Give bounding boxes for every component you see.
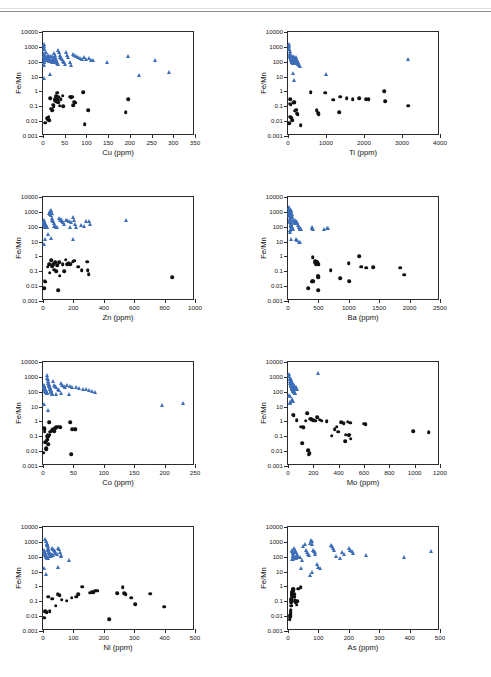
y-axis-tick	[39, 32, 43, 33]
x-axis-tick-label: 400	[404, 635, 414, 641]
y-axis-tick	[39, 572, 43, 573]
data-point	[326, 226, 330, 230]
data-point	[42, 402, 46, 406]
data-point	[133, 602, 137, 606]
y-axis-tick-label: 0.1	[29, 433, 38, 439]
x-axis-tick-label: 300	[129, 635, 139, 641]
x-axis-tick-label: 100	[81, 140, 91, 146]
data-point	[291, 71, 295, 75]
y-axis-tick	[284, 286, 288, 287]
panel-as: 0.0010.010.11101001000100000100200300400…	[245, 513, 491, 677]
data-point	[93, 390, 97, 394]
y-axis-tick	[284, 32, 288, 33]
x-axis-tick	[43, 134, 44, 138]
x-axis-tick	[379, 299, 380, 303]
data-point	[85, 260, 89, 264]
data-point	[310, 570, 314, 574]
data-point	[47, 442, 51, 446]
x-axis-tick-label: 400	[159, 635, 169, 641]
plot-area: 0.0010.010.11101001000100000100020003000…	[287, 31, 439, 135]
plot-area: 0.0010.010.11101001000100000100200300400…	[42, 526, 194, 630]
y-axis-tick-label: 1	[280, 583, 283, 589]
x-axis-tick-label: 1200	[433, 470, 447, 476]
x-axis-tick	[326, 134, 327, 138]
x-axis-tick	[349, 629, 350, 633]
y-axis-tick	[284, 271, 288, 272]
data-point	[121, 585, 125, 589]
data-point	[42, 287, 46, 291]
data-point	[181, 401, 185, 405]
data-point	[42, 616, 46, 620]
x-axis-tick	[288, 629, 289, 633]
y-axis-tick-label: 10000	[266, 524, 283, 530]
data-point	[403, 273, 407, 277]
data-point	[311, 227, 315, 231]
y-axis-tick	[284, 436, 288, 437]
y-axis-tick-label: 0.1	[29, 598, 38, 604]
data-point	[347, 261, 351, 265]
data-point	[124, 110, 128, 114]
y-axis-tick-label: 10000	[21, 194, 38, 200]
x-axis-tick-label: 200	[99, 635, 109, 641]
y-axis-tick-label: 0.1	[29, 103, 38, 109]
data-point	[50, 211, 54, 215]
data-point	[45, 225, 49, 229]
data-point	[357, 96, 361, 100]
data-point	[69, 453, 73, 457]
data-point	[304, 419, 308, 423]
data-point	[126, 97, 130, 101]
data-point	[325, 419, 329, 423]
y-axis-tick-label: 0.01	[26, 613, 38, 619]
y-axis-tick	[284, 527, 288, 528]
y-axis-tick	[39, 527, 43, 528]
y-axis-tick-label: 1000	[24, 539, 38, 545]
data-point	[124, 592, 128, 596]
panel-cu: 0.0010.010.11101001000100000501001502002…	[0, 18, 245, 183]
data-point	[337, 110, 341, 114]
x-axis-tick-label: 100	[68, 635, 78, 641]
x-axis-tick-label: 2000	[357, 140, 371, 146]
data-point	[332, 548, 336, 552]
y-axis-tick-label: 10	[276, 568, 283, 574]
data-point	[67, 558, 71, 562]
x-axis-tick-label: 3000	[395, 140, 409, 146]
data-point	[62, 269, 66, 273]
y-axis-tick-label: 1	[280, 418, 283, 424]
data-point	[65, 599, 69, 603]
data-point	[95, 589, 99, 593]
data-point	[72, 259, 76, 263]
x-axis-tick	[440, 134, 441, 138]
data-point	[364, 553, 368, 557]
x-axis-tick-label: 300	[374, 635, 384, 641]
y-axis-tick	[284, 572, 288, 573]
data-point	[71, 95, 75, 99]
data-point	[44, 280, 48, 284]
data-point	[287, 122, 291, 126]
data-point	[293, 101, 297, 105]
data-point	[313, 419, 317, 423]
y-axis-tick-label: 1000	[269, 44, 283, 50]
y-axis-tick-label: 10	[276, 238, 283, 244]
y-axis-tick-label: 10000	[21, 524, 38, 530]
data-point	[318, 566, 322, 570]
x-axis-tick	[313, 464, 314, 468]
x-axis-tick-label: 400	[99, 305, 109, 311]
data-point	[295, 599, 299, 603]
x-axis-tick	[73, 629, 74, 633]
data-point	[307, 553, 311, 557]
data-point	[296, 113, 300, 117]
x-axis-tick	[173, 134, 174, 138]
y-axis-title: Fe/Mn	[260, 68, 268, 98]
y-axis-tick-label: 100	[273, 554, 283, 560]
x-axis-title: Zn (ppm)	[43, 314, 193, 322]
data-point	[83, 123, 87, 127]
data-point	[324, 91, 328, 95]
x-axis-tick	[65, 134, 66, 138]
data-point	[61, 94, 65, 98]
x-axis-tick-label: 100	[313, 635, 323, 641]
x-axis-tick-label: 250	[146, 140, 156, 146]
y-axis-tick-label: 1000	[24, 374, 38, 380]
x-axis-tick-label: 500	[190, 635, 200, 641]
x-axis-tick-label: 600	[359, 470, 369, 476]
x-axis-tick-label: 600	[129, 305, 139, 311]
